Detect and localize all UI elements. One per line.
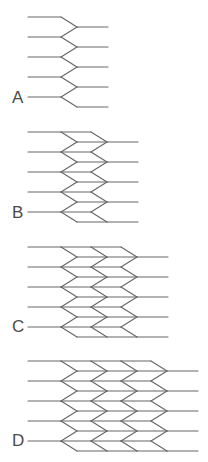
lattice-diagonal: [121, 411, 137, 421]
lattice-diagonal: [61, 37, 77, 47]
lattice-diagonal: [121, 441, 137, 451]
lattice-diagonal: [151, 411, 167, 421]
lattice-diagonal: [91, 277, 107, 287]
lattice-diagonal: [61, 361, 77, 371]
lattice-diagonal: [91, 317, 107, 327]
lattice-diagonal: [61, 411, 77, 421]
lattice-diagonal: [61, 27, 77, 37]
lattice-diagonal: [121, 307, 137, 317]
lattice-diagonal: [91, 297, 107, 307]
lattice-diagonal: [61, 267, 77, 277]
lattice-diagonal: [61, 297, 77, 307]
lattice-diagonal: [91, 421, 107, 431]
lattice-diagonal: [61, 17, 77, 27]
lattice-diagonal: [61, 317, 77, 327]
panel-label-c: C: [12, 318, 24, 335]
lattice-diagonal: [91, 431, 107, 441]
lattice-diagonal: [61, 67, 77, 77]
panel-d: [28, 361, 198, 451]
lattice-diagonal: [151, 431, 167, 441]
lattice-diagonal: [151, 441, 167, 451]
lattice-diagonal: [91, 441, 107, 451]
lattice-diagonal: [61, 162, 77, 172]
lattice-diagonal: [61, 441, 77, 451]
lattice-diagonal: [121, 297, 137, 307]
lattice-diagonal: [61, 307, 77, 317]
lattice-diagonal: [91, 267, 107, 277]
lattice-diagonal: [121, 317, 137, 327]
lattice-diagonal: [121, 401, 137, 411]
lattice-diagonal: [121, 247, 137, 257]
lattice-diagonal: [91, 212, 107, 222]
lattice-diagonal: [61, 152, 77, 162]
lattice-diagonal: [121, 371, 137, 381]
lattice-diagonal: [91, 152, 107, 162]
lattice-diagonal: [121, 267, 137, 277]
lattice-diagonal: [91, 371, 107, 381]
panel-label-d: D: [12, 432, 24, 449]
lattice-diagonal: [121, 277, 137, 287]
lattice-diagonal: [91, 401, 107, 411]
lattice-diagonal: [61, 202, 77, 212]
panel-c: [28, 247, 168, 337]
lattice-diagonal: [121, 361, 137, 371]
lattice-diagonal: [61, 77, 77, 87]
lattice-diagonal: [151, 401, 167, 411]
lattice-diagonal: [61, 287, 77, 297]
lattice-diagonal: [61, 371, 77, 381]
lattice-diagonal: [91, 257, 107, 267]
lattice-diagonal: [61, 47, 77, 57]
lattice-diagonal: [61, 381, 77, 391]
panel-label-b: B: [12, 204, 23, 221]
lattice-diagonal: [91, 307, 107, 317]
lattice-diagonal: [91, 182, 107, 192]
lattice-diagonal: [151, 371, 167, 381]
lattice-diagonal: [61, 172, 77, 182]
lattice-diagonal: [151, 361, 167, 371]
lattice-diagonal: [151, 391, 167, 401]
lattice-diagonal: [91, 287, 107, 297]
lattice-diagonal: [91, 162, 107, 172]
lattice-diagonal: [91, 202, 107, 212]
lattice-diagonal: [61, 192, 77, 202]
lattice-diagonal: [151, 421, 167, 431]
lattice-diagonal: [61, 182, 77, 192]
lattice-diagonal: [61, 257, 77, 267]
lattice-diagonal: [61, 391, 77, 401]
lattice-diagonal: [61, 132, 77, 142]
lattice-diagram: [0, 0, 208, 462]
lattice-diagonal: [121, 327, 137, 337]
lattice-diagonal: [61, 421, 77, 431]
lattice-diagonal: [61, 142, 77, 152]
lattice-diagonal: [91, 247, 107, 257]
lattice-diagonal: [61, 212, 77, 222]
lattice-diagonal: [91, 172, 107, 182]
lattice-diagonal: [61, 431, 77, 441]
lattice-diagonal: [91, 327, 107, 337]
lattice-diagonal: [61, 277, 77, 287]
lattice-diagonal: [61, 97, 77, 107]
lattice-diagonal: [121, 381, 137, 391]
lattice-diagonal: [91, 192, 107, 202]
lattice-diagonal: [61, 87, 77, 97]
lattice-diagonal: [61, 57, 77, 67]
lattice-diagonal: [61, 327, 77, 337]
lattice-diagonal: [91, 361, 107, 371]
lattice-diagonal: [121, 421, 137, 431]
lattice-diagonal: [61, 401, 77, 411]
lattice-diagonal: [121, 431, 137, 441]
lattice-diagonal: [151, 381, 167, 391]
panel-b: [28, 132, 138, 222]
lattice-diagonal: [121, 257, 137, 267]
lattice-diagonal: [91, 391, 107, 401]
lattice-diagonal: [91, 381, 107, 391]
lattice-diagonal: [91, 142, 107, 152]
lattice-diagonal: [61, 247, 77, 257]
lattice-diagonal: [121, 287, 137, 297]
panel-a: [28, 17, 108, 107]
lattice-diagonal: [91, 132, 107, 142]
lattice-diagonal: [91, 411, 107, 421]
lattice-diagonal: [121, 391, 137, 401]
panel-label-a: A: [12, 89, 23, 106]
